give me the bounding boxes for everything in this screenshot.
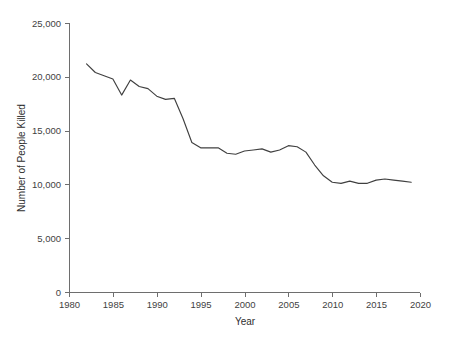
- y-axis-tick-labels: 0 5,000 10,000 15,000 20,000 25,000: [32, 18, 61, 298]
- x-tick-label-1980: 1980: [59, 299, 80, 310]
- x-tick-label-2005: 2005: [278, 299, 299, 310]
- x-axis-title: Year: [235, 316, 256, 327]
- y-tick-label-10000: 10,000: [32, 179, 61, 190]
- x-tick-label-2000: 2000: [234, 299, 255, 310]
- x-tick-label-1990: 1990: [147, 299, 168, 310]
- line-chart: 0 5,000 10,000 15,000 20,000 25,000 1980…: [0, 0, 456, 343]
- y-tick-label-25000: 25,000: [32, 18, 61, 29]
- y-axis-title: Number of People Killed: [16, 104, 27, 212]
- y-axis-ticks: [65, 24, 70, 293]
- x-axis-tick-labels: 1980 1985 1990 1995 2000 2005 2010 2015 …: [59, 299, 431, 310]
- y-tick-label-15000: 15,000: [32, 125, 61, 136]
- x-tick-label-2015: 2015: [366, 299, 387, 310]
- data-series-line: [87, 64, 412, 183]
- chart-container: 0 5,000 10,000 15,000 20,000 25,000 1980…: [0, 0, 456, 343]
- y-tick-label-5000: 5,000: [37, 233, 61, 244]
- x-tick-label-2020: 2020: [410, 299, 431, 310]
- x-axis-ticks: [70, 293, 421, 298]
- x-tick-label-1985: 1985: [103, 299, 124, 310]
- y-tick-label-20000: 20,000: [32, 71, 61, 82]
- x-tick-label-1995: 1995: [191, 299, 212, 310]
- x-tick-label-2010: 2010: [322, 299, 343, 310]
- y-tick-label-0: 0: [56, 287, 61, 298]
